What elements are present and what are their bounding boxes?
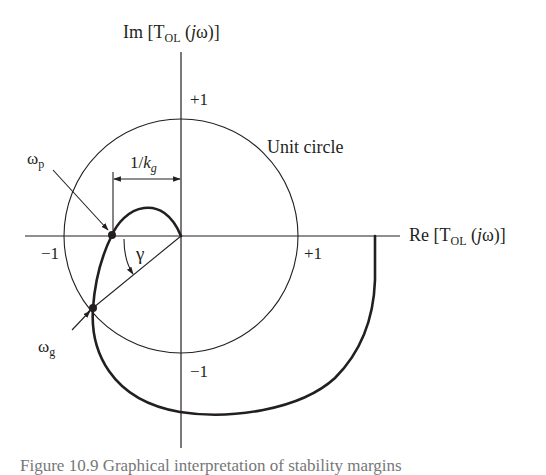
omega-p-point xyxy=(108,231,116,239)
unit-circle-label: Unit circle xyxy=(267,138,343,156)
figure-caption: Figure 10.9 Graphical interpretation of … xyxy=(20,457,402,474)
im-plus-one-tick-label: +1 xyxy=(190,91,208,108)
gain-margin-label: 1/kg xyxy=(130,154,157,171)
omega-p-pointer xyxy=(53,170,108,230)
phase-margin-angle-label: γ xyxy=(136,244,144,263)
nyquist-curve xyxy=(93,208,375,415)
omega-g-point xyxy=(89,304,97,312)
re-minus-one-tick-label: −1 xyxy=(41,245,59,262)
im-minus-one-tick-label: −1 xyxy=(190,363,208,380)
real-axis-label: Re [TOL (jω)] xyxy=(409,226,506,244)
imaginary-axis-label: Im [TOL (jω)] xyxy=(123,23,220,41)
omega-g-pointer xyxy=(72,311,90,330)
re-plus-one-tick-label: +1 xyxy=(304,245,322,262)
phase-margin-arc xyxy=(124,239,133,274)
omega-g-label: ωg xyxy=(38,338,55,355)
omega-p-label: ωp xyxy=(27,150,44,167)
phase-margin-line xyxy=(88,236,181,312)
